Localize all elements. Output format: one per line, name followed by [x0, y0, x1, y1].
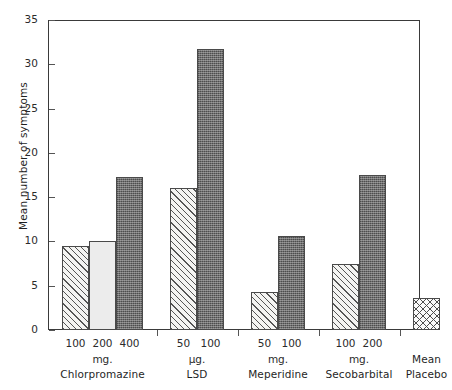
bar	[278, 236, 305, 330]
bar	[170, 188, 197, 330]
x-group-label: Placebo	[377, 368, 452, 380]
y-tick-label: 25	[8, 102, 38, 114]
bar	[89, 241, 116, 330]
x-group-separator	[238, 330, 239, 336]
bar	[359, 175, 386, 330]
y-tick-label: 5	[8, 279, 38, 291]
y-tick-label: 35	[8, 13, 38, 25]
bar	[116, 177, 143, 330]
x-group-separator	[157, 330, 158, 336]
x-unit-label: mg.	[238, 353, 318, 365]
y-tick-label: 15	[8, 190, 38, 202]
bar	[251, 292, 278, 330]
x-dose-label: 400	[110, 337, 149, 349]
x-unit-label: mg.	[63, 353, 143, 365]
x-group-separator	[319, 330, 320, 336]
x-group-separator	[400, 330, 401, 336]
x-dose-label: 200	[353, 337, 392, 349]
x-dose-label: 100	[191, 337, 230, 349]
y-tick-label: 0	[8, 323, 38, 335]
y-tick-label: 30	[8, 57, 38, 69]
x-group-label: Mean	[377, 353, 452, 365]
bar	[197, 49, 224, 330]
y-tick-label: 20	[8, 146, 38, 158]
bar	[413, 298, 440, 330]
y-tick-mark	[49, 330, 55, 331]
bar	[332, 264, 359, 330]
bar	[62, 246, 89, 330]
bars-layer	[48, 20, 420, 330]
x-unit-label: µg.	[157, 353, 237, 365]
x-dose-label: 100	[272, 337, 311, 349]
y-tick-label: 10	[8, 234, 38, 246]
